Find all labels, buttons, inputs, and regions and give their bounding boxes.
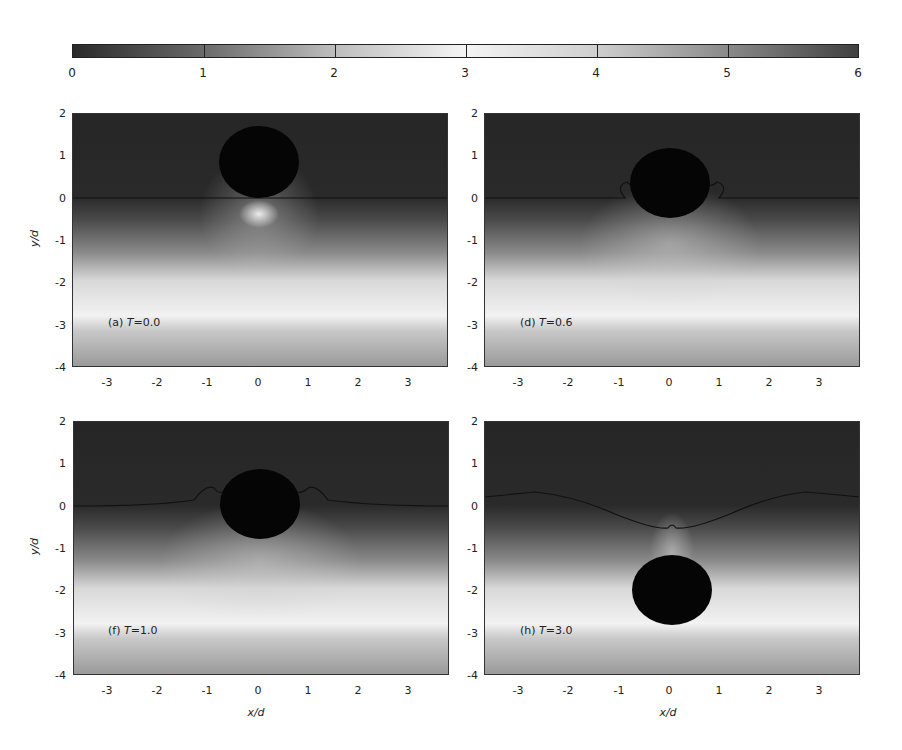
y-tick: -3 [42, 319, 66, 332]
colorbar [72, 44, 859, 58]
x-tick: 1 [305, 376, 312, 389]
x-tick: 3 [405, 376, 412, 389]
y-tick: 1 [454, 149, 478, 162]
x-tick: -1 [202, 376, 213, 389]
colorbar-tick: 6 [854, 66, 862, 80]
x-tick: -1 [614, 684, 625, 697]
y-tick: -2 [454, 276, 478, 289]
y-axis-label: y/d [28, 230, 41, 247]
panel-label-a: (a) T=0.0 [108, 316, 160, 329]
y-tick: -3 [454, 319, 478, 332]
time-symbol: T [539, 316, 546, 329]
panel-id: (f) [108, 624, 120, 637]
y-tick: -4 [42, 669, 66, 682]
y-tick: -4 [42, 361, 66, 374]
x-axis-label: x/d [247, 706, 264, 719]
time-symbol: T [127, 316, 134, 329]
y-tick: -1 [454, 542, 478, 555]
colorbar-tick: 0 [68, 66, 76, 80]
x-tick: 2 [355, 684, 362, 697]
y-tick: 2 [454, 415, 478, 428]
y-axis-label: y/d [28, 538, 41, 555]
x-tick: 3 [816, 684, 823, 697]
y-tick: -4 [454, 361, 478, 374]
y-tick: 0 [42, 192, 66, 205]
time-symbol: T [124, 624, 131, 637]
x-axis-label: x/d [659, 706, 676, 719]
colorbar-divider [204, 45, 205, 57]
y-tick: -3 [42, 627, 66, 640]
y-tick: -2 [42, 584, 66, 597]
x-tick: 0 [255, 684, 262, 697]
y-tick: 1 [454, 457, 478, 470]
y-tick: -1 [42, 542, 66, 555]
y-tick: 0 [454, 500, 478, 513]
panel-label-f: (f) T=1.0 [108, 624, 157, 637]
time-value: =0.6 [546, 316, 573, 329]
x-tick: -2 [152, 376, 163, 389]
panel-id: (a) [108, 316, 123, 329]
panel-label-d: (d) T=0.6 [520, 316, 573, 329]
time-value: =1.0 [131, 624, 158, 637]
x-tick: 0 [666, 684, 673, 697]
colorbar-tick: 4 [592, 66, 600, 80]
y-tick: -2 [42, 276, 66, 289]
x-tick: 2 [355, 376, 362, 389]
x-tick: -1 [614, 376, 625, 389]
x-tick: 3 [405, 684, 412, 697]
y-tick: 1 [42, 457, 66, 470]
x-tick: -3 [102, 684, 113, 697]
y-tick: 2 [454, 107, 478, 120]
y-tick: 2 [42, 107, 66, 120]
x-tick: -2 [563, 684, 574, 697]
x-tick: 3 [816, 376, 823, 389]
x-tick: 1 [716, 684, 723, 697]
colorbar-tick: 2 [330, 66, 338, 80]
y-tick: 2 [42, 415, 66, 428]
colorbar-divider [466, 45, 467, 57]
time-value: =3.0 [546, 624, 573, 637]
colorbar-tick: 1 [199, 66, 207, 80]
x-tick: -3 [513, 684, 524, 697]
x-tick: -2 [563, 376, 574, 389]
y-tick: 0 [42, 500, 66, 513]
y-tick: -4 [454, 669, 478, 682]
colorbar-divider [728, 45, 729, 57]
x-tick: 0 [666, 376, 673, 389]
x-tick: -1 [202, 684, 213, 697]
colorbar-divider [335, 45, 336, 57]
panel-id: (d) [520, 316, 536, 329]
panel-label-h: (h) T=3.0 [520, 624, 573, 637]
x-tick: -3 [102, 376, 113, 389]
y-tick: -1 [454, 234, 478, 247]
x-tick: 2 [766, 376, 773, 389]
x-tick: 1 [716, 376, 723, 389]
x-tick: 1 [305, 684, 312, 697]
colorbar-tick: 5 [723, 66, 731, 80]
y-tick: 1 [42, 149, 66, 162]
y-tick: -1 [42, 234, 66, 247]
x-tick: -3 [513, 376, 524, 389]
colorbar-tick: 3 [461, 66, 469, 80]
x-tick: 2 [766, 684, 773, 697]
time-value: =0.0 [134, 316, 161, 329]
x-tick: 0 [255, 376, 262, 389]
y-tick: 0 [454, 192, 478, 205]
x-tick: -2 [152, 684, 163, 697]
y-tick: -2 [454, 584, 478, 597]
colorbar-divider [597, 45, 598, 57]
time-symbol: T [539, 624, 546, 637]
panel-id: (h) [520, 624, 536, 637]
y-tick: -3 [454, 627, 478, 640]
